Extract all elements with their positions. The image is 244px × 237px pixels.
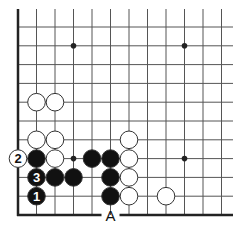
white-stone xyxy=(157,187,175,205)
white-stone xyxy=(28,131,46,149)
star-point xyxy=(71,43,77,49)
black-stone xyxy=(102,150,120,168)
white-stone xyxy=(46,150,64,168)
white-stone: 2 xyxy=(9,150,27,168)
white-stone xyxy=(120,150,138,168)
black-stone: 3 xyxy=(28,169,46,187)
white-stone xyxy=(28,93,46,111)
black-stone xyxy=(46,169,64,187)
star-point xyxy=(71,156,77,162)
black-stone xyxy=(65,169,83,187)
black-stone: 1 xyxy=(28,187,46,205)
black-stone xyxy=(102,169,120,187)
go-board: 231 A xyxy=(0,0,244,237)
white-stone xyxy=(120,169,138,187)
move-number: 2 xyxy=(14,151,21,166)
star-point xyxy=(182,156,188,162)
edge-labels: A xyxy=(105,207,115,224)
move-number: 1 xyxy=(33,189,40,204)
black-stone xyxy=(83,150,101,168)
white-stone xyxy=(46,131,64,149)
move-number: 3 xyxy=(33,170,40,185)
black-stone xyxy=(102,187,120,205)
white-stone xyxy=(120,131,138,149)
star-point xyxy=(182,43,188,49)
black-stone xyxy=(28,150,46,168)
point-label-A: A xyxy=(105,207,115,224)
white-stone xyxy=(46,93,64,111)
white-stone xyxy=(120,187,138,205)
